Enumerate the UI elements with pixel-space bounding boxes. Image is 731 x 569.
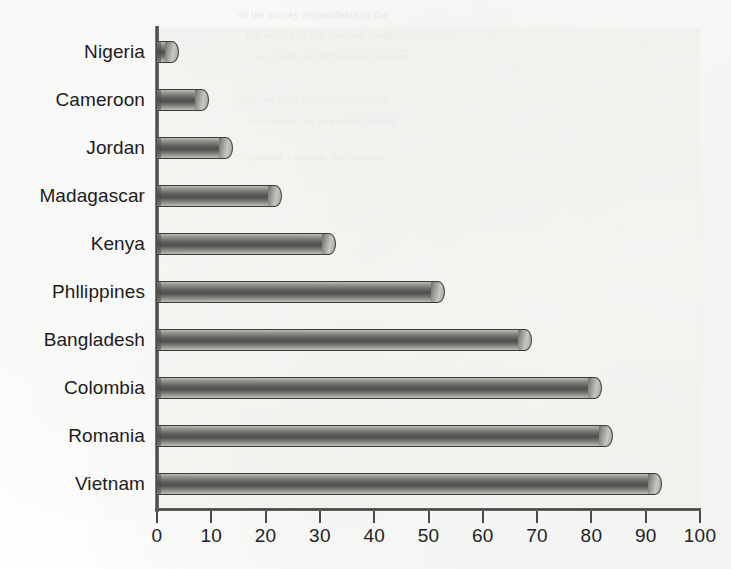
bar-end-cap [165,41,179,63]
x-axis-tick-label: 80 [581,525,603,547]
x-axis-tick-label: 10 [201,525,223,547]
bar-end-cap [322,233,336,255]
bar-end-cap [599,425,613,447]
bar-bangladesh [157,329,532,351]
bar-body [157,281,438,303]
x-axis-tick-label: 60 [472,525,494,547]
x-axis-tick-label: 40 [363,525,385,547]
bar-end-cap [219,137,233,159]
bar-chart: 0102030405060708090100 NigeriaCameroonJo… [0,0,731,569]
bar-body [157,329,525,351]
x-axis-tick [210,511,212,523]
bar-body [157,185,275,207]
bar-left-edge [156,425,161,447]
bar-madagascar [157,185,282,207]
category-label-colombia: Colombia [64,377,145,399]
bar-body [157,473,655,495]
bar-cameroon [157,89,209,111]
bar-phllippines [157,281,445,303]
x-axis-tick [536,511,538,523]
x-axis-tick [699,511,701,523]
x-axis-tick [373,511,375,523]
bar-kenya [157,233,336,255]
x-axis-tick [590,511,592,523]
bar-left-edge [156,137,161,159]
bar-body [157,233,329,255]
bar-vietnam [157,473,662,495]
bar-left-edge [156,89,161,111]
x-axis-tick [319,511,321,523]
bar-body [157,425,606,447]
bar-end-cap [431,281,445,303]
bar-nigeria [157,41,179,63]
category-label-nigeria: Nigeria [84,41,145,63]
bar-left-edge [156,185,161,207]
x-axis-tick-label: 50 [418,525,440,547]
bar-left-edge [156,329,161,351]
x-axis-tick [482,511,484,523]
bar-left-edge [156,377,161,399]
x-axis-tick [156,511,158,523]
category-label-kenya: Kenya [91,233,145,255]
bar-end-cap [195,89,209,111]
bar-jordan [157,137,233,159]
bar-end-cap [268,185,282,207]
bar-end-cap [518,329,532,351]
x-axis-tick [428,511,430,523]
x-axis-tick-label: 30 [309,525,331,547]
x-axis-tick-label: 20 [255,525,277,547]
x-axis-tick [645,511,647,523]
bar-body [157,137,226,159]
bar-end-cap [588,377,602,399]
bar-left-edge [156,233,161,255]
bar-end-cap [648,473,662,495]
x-axis-tick-label: 100 [684,525,716,547]
bar-left-edge [156,41,161,63]
category-label-bangladesh: Bangladesh [44,329,145,351]
bar-left-edge [156,281,161,303]
category-label-madagascar: Madagascar [39,185,145,207]
bar-colombia [157,377,602,399]
x-axis-tick-label: 70 [526,525,548,547]
category-label-romania: Romania [68,425,145,447]
x-axis-tick-label: 0 [152,525,163,547]
x-axis-tick [265,511,267,523]
category-label-cameroon: Cameroon [55,89,145,111]
bar-left-edge [156,473,161,495]
bar-body [157,377,595,399]
x-axis-tick-label: 90 [635,525,657,547]
category-label-phllippines: Phllippines [52,281,145,303]
category-label-vietnam: Vietnam [75,473,145,495]
category-label-jordan: Jordan [86,137,145,159]
bar-romania [157,425,613,447]
